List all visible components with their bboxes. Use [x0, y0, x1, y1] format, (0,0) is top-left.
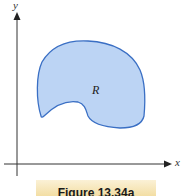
- figure-caption-band: Figure 13.34a: [36, 180, 156, 196]
- diagram-canvas: [0, 0, 186, 196]
- y-axis-label: y: [13, 0, 18, 11]
- y-axis: [14, 12, 21, 176]
- figure-caption: Figure 13.34a: [36, 186, 156, 196]
- x-axis-arrow-icon: [164, 161, 172, 168]
- region-label: R: [92, 83, 99, 98]
- x-axis: [4, 161, 172, 168]
- x-axis-label: x: [175, 156, 180, 168]
- y-axis-arrow-icon: [14, 12, 21, 20]
